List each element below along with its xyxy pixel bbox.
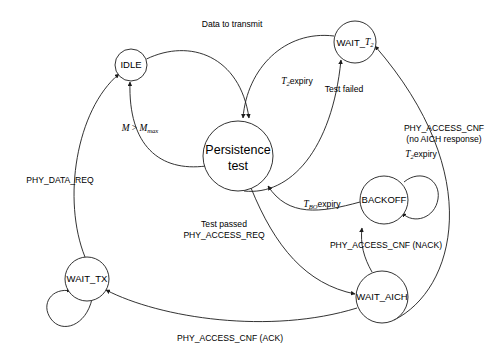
math-expiry-word-loop: expiry bbox=[414, 149, 438, 159]
state-label-persistence-line2: test bbox=[228, 159, 249, 173]
edge-label-phy-access-cnf: PHY_ACCESS_CNF bbox=[404, 123, 484, 133]
state-diagram-canvas: Data to transmit M > Mmax Test failed T2… bbox=[0, 0, 501, 352]
state-diagram-container: Data to transmit M > Mmax Test failed T2… bbox=[0, 0, 501, 352]
edge-persistence-to-idle: M > Mmax bbox=[121, 82, 206, 167]
state-label-wait-t2: WAIT_T2 bbox=[336, 37, 374, 48]
edge-path-wait-t2-to-persistence bbox=[243, 35, 334, 118]
state-label-wait-tx: WAIT_TX bbox=[67, 273, 108, 284]
edge-wait-aich-to-backoff: PHY_ACCESS_CNF (NACK) bbox=[330, 228, 442, 272]
edge-backoff-to-persistence: TBOexpiry bbox=[268, 186, 360, 210]
math-expiry-word-bo: expiry bbox=[318, 199, 342, 209]
edge-wait-tx-to-idle: PHY_DATA_REQ bbox=[26, 74, 119, 257]
state-node-wait-tx[interactable]: WAIT_TX bbox=[65, 257, 109, 301]
state-label-backoff: BACKOFF bbox=[362, 194, 407, 205]
state-node-wait-aich[interactable]: WAIT_AICH bbox=[356, 271, 408, 323]
state-node-persistence-test[interactable]: Persistence test bbox=[203, 121, 273, 191]
edge-label-t2-expiry-backoff: T2expiry bbox=[405, 149, 437, 160]
edge-path-wait-aich-to-backoff bbox=[361, 228, 372, 272]
edge-label-data-to-transmit: Data to transmit bbox=[202, 19, 263, 29]
state-label-persistence-line1: Persistence bbox=[205, 143, 270, 157]
edge-label-phy-access-cnf-nack: PHY_ACCESS_CNF (NACK) bbox=[330, 240, 442, 250]
edge-label-phy-data-req: PHY_DATA_REQ bbox=[26, 175, 94, 185]
edge-label-phy-access-cnf-ack: PHY_ACCESS_CNF (ACK) bbox=[177, 333, 283, 343]
edge-wait-t2-to-persistence: T2expiry bbox=[243, 35, 334, 118]
edge-path-wait-tx-to-idle bbox=[74, 74, 119, 257]
math-expiry-word: expiry bbox=[290, 76, 314, 86]
edge-path-wait-aich-to-wait-tx bbox=[106, 290, 357, 322]
math-mmax-sub: max bbox=[147, 127, 158, 134]
math-gt-sign: > bbox=[130, 123, 140, 133]
math-tbo-sub: BO bbox=[309, 203, 318, 210]
state-label-wait-aich: WAIT_AICH bbox=[356, 291, 408, 302]
state-label-idle: IDLE bbox=[120, 59, 141, 70]
state-node-wait-t2[interactable]: WAIT_T2 bbox=[334, 21, 376, 63]
edge-label-tbo-expiry: TBOexpiry bbox=[304, 199, 342, 210]
edge-wait-aich-to-wait-tx: PHY_ACCESS_CNF (ACK) bbox=[106, 290, 357, 343]
edge-path-idle-to-persistence bbox=[147, 51, 250, 118]
edge-label-t2-expiry-top: T2expiry bbox=[281, 76, 313, 87]
edge-label-test-passed: Test passed bbox=[201, 219, 247, 229]
state-node-idle[interactable]: IDLE bbox=[115, 49, 147, 81]
edge-backoff-self-loop: T2expiry bbox=[402, 149, 438, 219]
edge-label-m-greater-mmax: M > Mmax bbox=[121, 123, 159, 134]
state-label-wait-t2-prefix: WAIT_ bbox=[336, 37, 365, 48]
edge-label-test-failed: Test failed bbox=[325, 84, 364, 94]
state-node-backoff[interactable]: BACKOFF bbox=[360, 176, 408, 224]
edge-label-no-aich-response: (no AICH response) bbox=[406, 134, 482, 144]
edge-label-phy-access-req: PHY_ACCESS_REQ bbox=[183, 230, 265, 240]
